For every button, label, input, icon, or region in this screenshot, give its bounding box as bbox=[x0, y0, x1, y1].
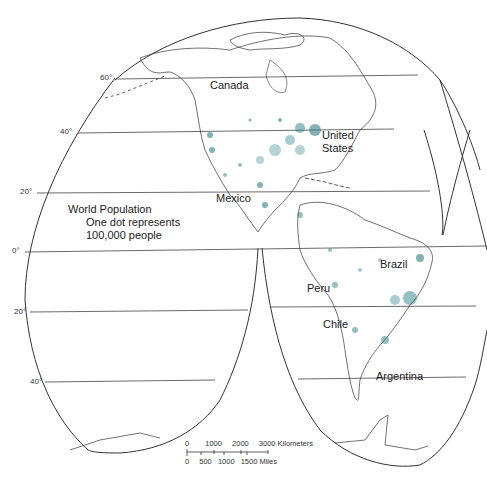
scale-km-1000: 1000 bbox=[205, 439, 222, 448]
legend-title: World Population bbox=[68, 203, 180, 216]
country-label-argentina: Argentina bbox=[376, 370, 423, 382]
scale-km-labels: 0 1000 2000 3000 Kilometers bbox=[185, 439, 313, 448]
country-label-united: United bbox=[322, 129, 354, 141]
country-label-peru: Peru bbox=[307, 282, 330, 294]
lat-label-40s: 40° bbox=[30, 377, 42, 386]
legend: World Population One dot represents 100,… bbox=[68, 203, 180, 242]
lat-label-equator: 0° bbox=[12, 246, 20, 255]
lat-label-20n: 20° bbox=[20, 187, 32, 196]
scale-km-2000: 2000 bbox=[232, 439, 249, 448]
country-label-chile: Chile bbox=[323, 318, 348, 330]
scale-km-3000: 3000 Kilometers bbox=[259, 439, 313, 448]
scale-mi-1500: 1500 Miles bbox=[241, 457, 277, 466]
legend-line2: 100,000 people bbox=[68, 229, 180, 242]
lat-label-20s: 20° bbox=[14, 307, 26, 316]
country-label-canada: Canada bbox=[210, 79, 249, 91]
population-map: 60° 40° 20° 0° 20° 40° Canada United Sta… bbox=[0, 0, 487, 491]
scale-mi-0: 0 bbox=[185, 457, 189, 466]
map-graphic bbox=[0, 0, 487, 491]
scale-km-0: 0 bbox=[185, 439, 189, 448]
country-label-mexico: Mexico bbox=[216, 192, 251, 204]
lat-label-60n: 60° bbox=[100, 73, 112, 82]
scale-mile-labels: 0 500 1000 1500 Miles bbox=[185, 457, 277, 466]
lat-label-40n: 40° bbox=[60, 127, 72, 136]
scale-mi-1000: 1000 bbox=[218, 457, 235, 466]
legend-line1: One dot represents bbox=[68, 216, 180, 229]
scale-bar-graphic bbox=[187, 449, 268, 456]
country-label-brazil: Brazil bbox=[380, 258, 408, 270]
scale-mi-500: 500 bbox=[199, 457, 212, 466]
country-label-states: States bbox=[322, 142, 353, 154]
